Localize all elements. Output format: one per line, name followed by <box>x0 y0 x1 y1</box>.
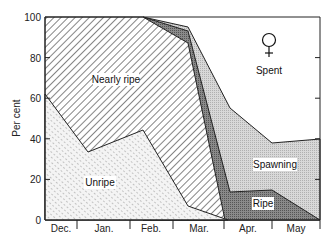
ytick-40: 40 <box>30 134 42 145</box>
y-tick-labels: 0 20 40 60 80 100 <box>24 12 41 226</box>
ytick-0: 0 <box>35 215 41 226</box>
month-jan: Jan. <box>95 223 114 234</box>
ytick-100: 100 <box>24 12 41 23</box>
month-apr: Apr. <box>239 223 257 234</box>
month-may: May <box>287 223 306 234</box>
label-ripe: Ripe <box>253 198 274 209</box>
label-spawning: Spawning <box>253 159 297 170</box>
female-symbol-icon <box>263 34 276 58</box>
label-nearly-ripe: Nearly ripe <box>92 74 141 85</box>
label-unripe: Unripe <box>85 177 115 188</box>
ytick-20: 20 <box>30 174 42 185</box>
label-spent: Spent <box>256 65 282 76</box>
x-tick-labels: Dec. Jan. Feb. Mar. Apr. May <box>51 223 306 234</box>
month-mar: Mar. <box>189 223 208 234</box>
month-feb: Feb. <box>141 223 161 234</box>
ytick-60: 60 <box>30 93 42 104</box>
ytick-80: 80 <box>30 53 42 64</box>
month-dec: Dec. <box>51 223 72 234</box>
stacked-area-chart: 0 20 40 60 80 100 Per cent Dec. Jan. Feb… <box>0 0 335 244</box>
y-axis-label: Per cent <box>11 99 22 136</box>
